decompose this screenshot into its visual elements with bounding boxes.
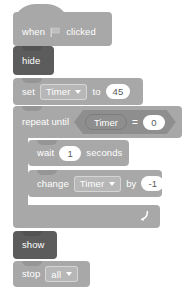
dropdown-value: Timer (80, 178, 104, 189)
chevron-down-icon (109, 182, 115, 186)
block-show[interactable]: show (13, 231, 57, 259)
variable-reporter-timer[interactable]: Timer (85, 114, 127, 130)
variable-dropdown-timer-2[interactable]: Timer (74, 176, 121, 192)
block-set-variable[interactable]: set Timer to 45 (13, 78, 143, 105)
block-stop[interactable]: stop all (13, 261, 90, 287)
dropdown-value: all (51, 269, 61, 280)
repeat-until-label: repeat until (22, 117, 69, 127)
chevron-down-icon (75, 90, 81, 94)
block-hide[interactable]: hide (13, 46, 54, 75)
block-notch (22, 106, 42, 111)
block-notch (37, 140, 57, 145)
stop-option-dropdown[interactable]: all (45, 266, 78, 282)
block-notch (22, 78, 42, 83)
repeat-until-arm (13, 138, 28, 205)
block-notch (22, 261, 42, 266)
clicked-label: clicked (66, 27, 96, 37)
number-input-45[interactable]: 45 (106, 84, 131, 99)
block-when-flag-clicked[interactable]: when clicked (13, 12, 112, 46)
equals-label: = (132, 117, 138, 128)
boolean-equals-operator[interactable]: Timer = 0 (74, 110, 176, 134)
number-input-1[interactable]: 1 (59, 146, 81, 161)
green-flag-icon (50, 27, 61, 38)
block-notch (37, 170, 57, 175)
stop-label: stop (22, 269, 40, 279)
block-change-variable[interactable]: change Timer by -1 (28, 170, 162, 197)
block-notch (22, 46, 42, 51)
block-wait-seconds[interactable]: wait 1 seconds (28, 140, 129, 166)
by-label: by (126, 179, 136, 189)
block-notch (22, 231, 42, 236)
repeat-until-footer (13, 205, 160, 228)
block-repeat-until[interactable]: repeat until Timer = 0 (13, 106, 182, 228)
loop-arrow-icon (136, 209, 150, 223)
variable-dropdown-timer[interactable]: Timer (40, 84, 87, 100)
when-label: when (22, 27, 45, 37)
set-label: set (22, 87, 35, 97)
show-label: show (22, 240, 45, 250)
number-input-0[interactable]: 0 (143, 115, 165, 130)
to-label: to (92, 87, 100, 97)
seconds-label: seconds (86, 148, 122, 158)
scratch-script-canvas: when clicked hide set Timer to 45 (0, 0, 196, 293)
wait-label: wait (37, 148, 54, 158)
change-label: change (37, 179, 69, 189)
dropdown-value: Timer (46, 86, 70, 97)
number-input-neg1[interactable]: -1 (141, 176, 164, 191)
hide-label: hide (22, 56, 40, 66)
chevron-down-icon (66, 272, 72, 276)
repeat-until-header[interactable]: repeat until Timer = 0 (13, 106, 182, 138)
